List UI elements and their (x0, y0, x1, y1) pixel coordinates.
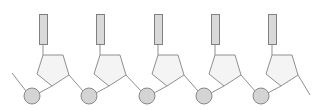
sugar-pentagon (152, 55, 184, 86)
nucleotide-4 (196, 15, 255, 105)
lead-bond (12, 73, 26, 91)
base-rectangle (155, 15, 163, 45)
backbone-bond (184, 75, 198, 91)
backbone-bond (241, 75, 255, 91)
phosphodiester-bond (154, 86, 167, 93)
sugar-pentagon (266, 55, 298, 86)
nucleotide-3 (139, 15, 198, 105)
backbone-bond (126, 75, 141, 91)
base-rectangle (40, 15, 48, 45)
phosphate-circle (253, 88, 269, 104)
sugar-pentagon (37, 55, 69, 86)
base-rectangle (269, 15, 277, 45)
nucleotide-1 (12, 15, 83, 105)
phosphodiester-bond (96, 86, 109, 93)
phosphate-circle (24, 88, 40, 104)
strand-units (12, 15, 310, 105)
phosphate-circle (196, 88, 212, 104)
nucleotide-5 (253, 15, 310, 105)
phosphodiester-bond (268, 86, 281, 93)
phosphate-circle (139, 88, 155, 104)
nucleotide-2 (81, 15, 141, 105)
nucleotide-strand-diagram (0, 0, 320, 110)
sugar-pentagon (209, 55, 241, 86)
phosphodiester-bond (211, 86, 224, 93)
base-rectangle (212, 15, 220, 45)
backbone-bond (69, 75, 83, 91)
base-rectangle (97, 15, 105, 45)
tail-bond (298, 75, 310, 95)
phosphodiester-bond (39, 86, 52, 93)
phosphate-circle (81, 88, 97, 104)
sugar-pentagon (94, 55, 126, 86)
